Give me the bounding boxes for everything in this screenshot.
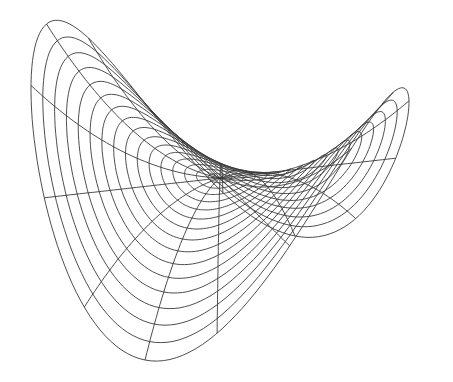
- spoke-line: [220, 92, 394, 180]
- spoke-line: [145, 178, 220, 360]
- spoke-line: [44, 178, 220, 198]
- saddle-wireframe: [0, 0, 453, 382]
- spoke-line: [220, 148, 352, 187]
